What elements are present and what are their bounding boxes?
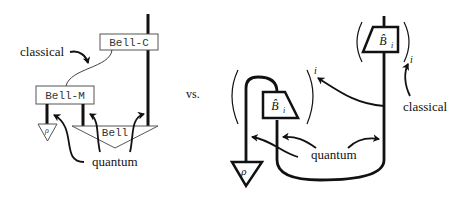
bell-c-box: Bell-C — [100, 34, 158, 50]
sum-index-outer: i — [410, 54, 413, 65]
vs-separator: vs. — [186, 87, 200, 101]
inner-b-sub: i — [283, 106, 285, 115]
bell-state-label: Bell — [102, 127, 128, 139]
classical-label-left: classical — [20, 44, 64, 59]
inner-b-label: B̂ — [271, 99, 279, 113]
inner-right-paren — [307, 70, 313, 124]
quantum-label-right: quantum — [311, 147, 357, 162]
quantum-arrow-1 — [54, 115, 84, 162]
rho-label-right: ρ — [240, 165, 246, 177]
top-b-label: B̂ — [379, 34, 387, 48]
inner-left-paren — [232, 70, 238, 124]
classical-arrow-inner — [318, 78, 384, 106]
quantum-arrow-r1 — [252, 137, 298, 157]
classical-wire — [66, 50, 112, 86]
bell-state-triangle: Bell — [72, 126, 158, 148]
classical-arrow-outer — [405, 64, 410, 96]
left-diagram: Bell-C Bell-M ρ Bell classical quantum — [20, 14, 158, 169]
rho-triangle-right: ρ — [232, 162, 262, 186]
rho-triangle-left: ρ — [38, 124, 57, 141]
right-diagram: i B̂ i ρ i B̂ i classical quantum — [232, 16, 447, 186]
sum-index-inner: i — [314, 65, 317, 76]
outer-right-paren — [404, 22, 409, 62]
diagram-canvas: Bell-C Bell-M ρ Bell classical quantum — [0, 0, 469, 198]
bell-m-box: Bell-M — [36, 86, 94, 104]
bell-m-label: Bell-M — [45, 90, 85, 102]
cap-wire — [246, 77, 277, 162]
top-b-effect: B̂ i — [363, 27, 398, 52]
classical-label-right: classical — [403, 99, 447, 114]
top-b-sub: i — [391, 41, 393, 50]
inner-b-effect: B̂ i — [263, 92, 298, 118]
outer-left-paren — [357, 22, 362, 62]
rho-label-left: ρ — [44, 126, 49, 135]
quantum-label-left: quantum — [92, 154, 138, 169]
bell-c-label: Bell-C — [109, 37, 149, 49]
classical-arrow-left — [70, 52, 88, 63]
